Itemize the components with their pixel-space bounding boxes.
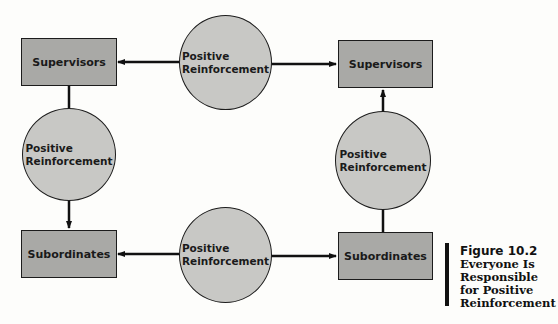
circle-label: PositiveReinforcement <box>182 242 269 268</box>
box-label: Supervisors <box>349 58 423 71</box>
circle-label-line: Positive <box>25 142 112 155</box>
caption-rule <box>445 243 449 306</box>
circle-label: PositiveReinforcement <box>182 50 269 76</box>
box-subordinates-bottom-left: Subordinates <box>21 230 117 278</box>
box-label: Subordinates <box>344 250 427 263</box>
figure-label: Figure 10.2 <box>460 244 556 258</box>
circle-label-line: Reinforcement <box>182 255 269 268</box>
circle-label-line: Reinforcement <box>182 63 269 76</box>
caption-line: Reinforcement <box>460 297 556 310</box>
box-supervisors-top-right: Supervisors <box>338 40 433 88</box>
box-label: Supervisors <box>32 56 106 69</box>
circle-positive-reinforcement-left: PositiveReinforcement <box>22 108 116 201</box>
figure-caption: Figure 10.2 Everyone Is Responsible for … <box>460 244 556 310</box>
box-label: Subordinates <box>28 248 111 261</box>
circle-label: PositiveReinforcement <box>339 148 426 174</box>
circle-positive-reinforcement-top: PositiveReinforcement <box>179 15 272 110</box>
circle-label: PositiveReinforcement <box>25 142 112 168</box>
circle-label-line: Positive <box>182 50 269 63</box>
circle-label-line: Positive <box>339 148 426 161</box>
box-subordinates-bottom-right: Subordinates <box>338 232 433 280</box>
circle-label-line: Reinforcement <box>339 161 426 174</box>
circle-positive-reinforcement-right: PositiveReinforcement <box>335 111 431 210</box>
circle-label-line: Positive <box>182 242 269 255</box>
circle-label-line: Reinforcement <box>25 155 112 168</box>
box-supervisors-top-left: Supervisors <box>21 38 117 86</box>
circle-positive-reinforcement-bottom: PositiveReinforcement <box>179 207 272 303</box>
